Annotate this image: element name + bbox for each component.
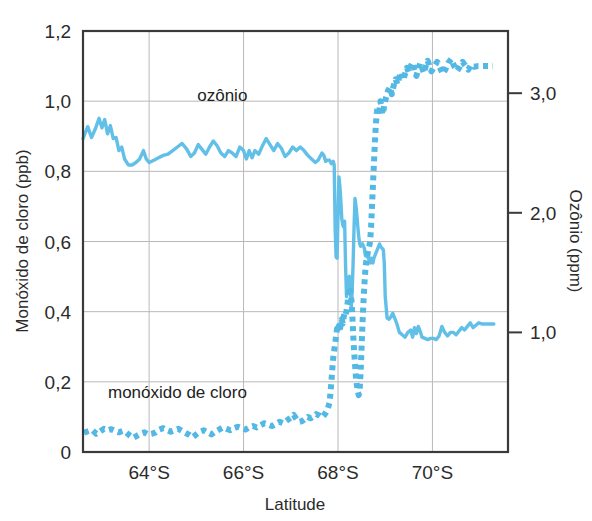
chart-background [0, 0, 592, 521]
y-tick-label-left: 1,0 [45, 91, 71, 112]
y-tick-label-left: 0,8 [45, 161, 71, 182]
y-tick-label-right: 2,0 [530, 203, 556, 224]
x-tick-label: 66°S [223, 462, 264, 483]
chart-figure: 64°S66°S68°S70°S 00,20,40,60,81,01,2 1,0… [0, 0, 592, 521]
x-tick-label: 64°S [128, 462, 169, 483]
y-tick-label-left: 0,4 [45, 302, 72, 323]
y-tick-label-left: 0,2 [45, 372, 71, 393]
series-annotation-monoxido-de-cloro: monóxido de cloro [108, 383, 247, 402]
x-tick-label: 68°S [317, 462, 358, 483]
y-tick-label-right: 3,0 [530, 83, 556, 104]
series-annotation-ozonio: ozônio [197, 86, 247, 105]
y-axis-right-title: Ozônio (ppm) [566, 190, 585, 293]
ozone-clo-latitude-chart: 64°S66°S68°S70°S 00,20,40,60,81,01,2 1,0… [0, 0, 592, 521]
y-tick-label-left: 0,6 [45, 232, 71, 253]
y-tick-label-left: 0 [60, 442, 71, 463]
y-tick-label-right: 1,0 [530, 322, 556, 343]
x-tick-label: 70°S [412, 462, 453, 483]
y-axis-left-title: Monóxido de cloro (ppb) [13, 149, 32, 332]
y-tick-label-left: 1,2 [45, 21, 71, 42]
x-axis-title: Latitude [265, 495, 326, 514]
